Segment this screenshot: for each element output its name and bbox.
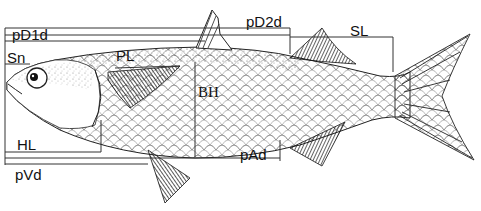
second-dorsal-fin xyxy=(290,28,356,64)
label-pD1d: pD1d xyxy=(12,26,48,43)
first-dorsal-fin xyxy=(196,10,232,50)
label-pVd: pVd xyxy=(15,166,42,183)
pupil xyxy=(30,73,38,81)
label-pD2d: pD2d xyxy=(246,13,282,30)
label-Sn: Sn xyxy=(7,49,25,66)
fish-body xyxy=(7,10,474,203)
label-pAd: pAd xyxy=(240,146,267,163)
label-BH: BH xyxy=(198,84,219,100)
caudal-fin xyxy=(395,34,474,160)
label-PL: PL xyxy=(116,47,134,64)
fish-morphometric-diagram: pD1d pD2d SL Sn PL BH HL pAd pVd xyxy=(0,0,481,211)
label-SL: SL xyxy=(350,22,368,39)
label-HL: HL xyxy=(17,136,36,153)
